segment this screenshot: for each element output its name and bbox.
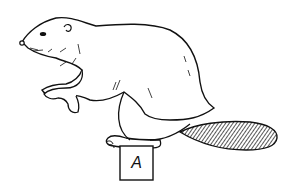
- beaver-body: [22, 18, 214, 120]
- beaver-illustration: A: [0, 0, 297, 196]
- beaver-arm: [44, 70, 82, 113]
- box-label: A: [120, 146, 153, 180]
- beaver-eye: [40, 32, 46, 36]
- beaver-tail: [180, 121, 277, 150]
- beaver-nose: [20, 41, 24, 45]
